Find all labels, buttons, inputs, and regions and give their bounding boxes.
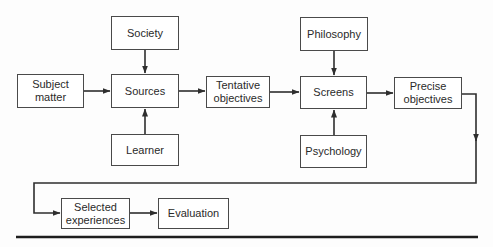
node-tentative-objectives: Tentative objectives [206,76,270,108]
node-subject-matter: Subject matter [17,74,84,108]
node-selected-experiences: Selected experiences [61,198,130,229]
node-psychology: Psychology [300,135,367,168]
diagram-canvas: Subject matter Society Sources Learner T… [0,0,493,247]
node-philosophy: Philosophy [300,17,368,51]
arrow-precise-down [462,94,476,141]
node-sources: Sources [111,74,179,108]
node-society: Society [111,16,179,50]
node-precise-objectives: Precise objectives [394,77,462,109]
node-learner: Learner [111,134,179,166]
node-screens: Screens [300,76,367,109]
node-evaluation: Evaluation [158,198,229,229]
